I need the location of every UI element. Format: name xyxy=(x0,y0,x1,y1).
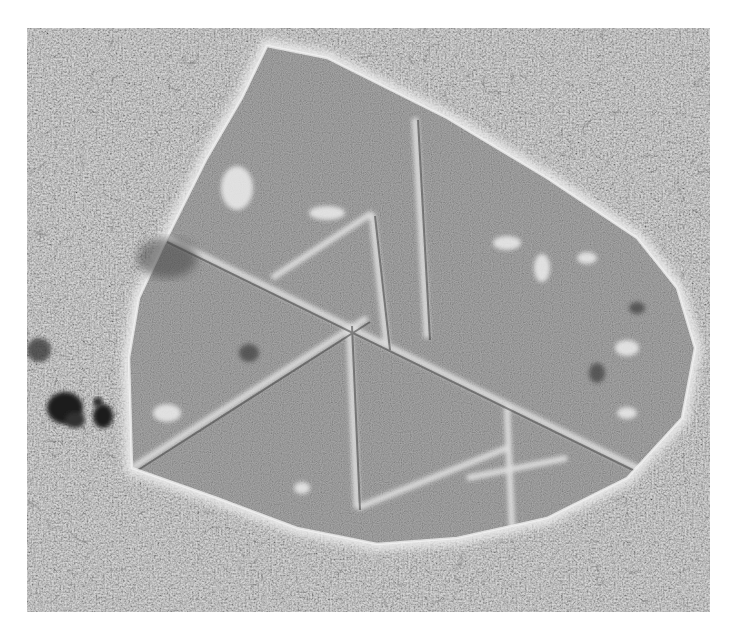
edge-shadow xyxy=(137,238,197,278)
particle-small xyxy=(93,404,113,428)
particle-large-lobe xyxy=(65,412,85,428)
micrograph-image xyxy=(27,28,710,612)
micrograph-svg xyxy=(27,28,710,612)
particle-faint xyxy=(27,338,51,362)
particle-tiny xyxy=(93,397,103,407)
